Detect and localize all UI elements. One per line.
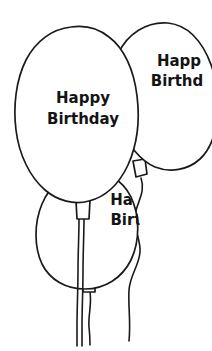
- balloons-illustration: Happ Birthd Hap Birt: [0, 0, 212, 351]
- balloon-main-left-line1: Happy: [56, 89, 110, 107]
- balloon-front-lower-string: [89, 292, 91, 345]
- balloon-main-left-line2: Birthday: [47, 110, 119, 128]
- balloons-svg-canvas: Happ Birthd Hap Birt: [0, 0, 212, 351]
